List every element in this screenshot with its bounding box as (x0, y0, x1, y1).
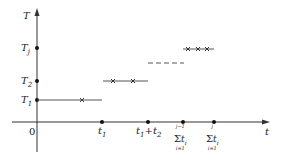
y-axis-label: T (23, 11, 30, 21)
cross-marker-icon (80, 47, 209, 102)
tick-label-t1-plus-t2: t1+t2 (136, 126, 161, 139)
tick-label-T2: T2 (21, 76, 32, 89)
tick-label-sum-j: j Σti i=1 (206, 124, 219, 151)
point-t1-plus-t2 (146, 120, 150, 124)
origin-label: 0 (29, 127, 35, 137)
tick-label-Tj: Tj (21, 43, 30, 56)
y-axis-arrow-icon (35, 8, 40, 16)
tick-label-sum-j-minus-1: j−1 Σti i=1 (174, 124, 187, 151)
point-T2 (35, 79, 39, 83)
tick-label-T1: T1 (21, 95, 32, 108)
x-axis-label: t (265, 127, 269, 137)
x-axis-arrow-icon (262, 120, 270, 125)
tick-label-t1: t1 (98, 126, 107, 139)
point-Tj (35, 46, 39, 50)
point-t1 (100, 120, 104, 124)
